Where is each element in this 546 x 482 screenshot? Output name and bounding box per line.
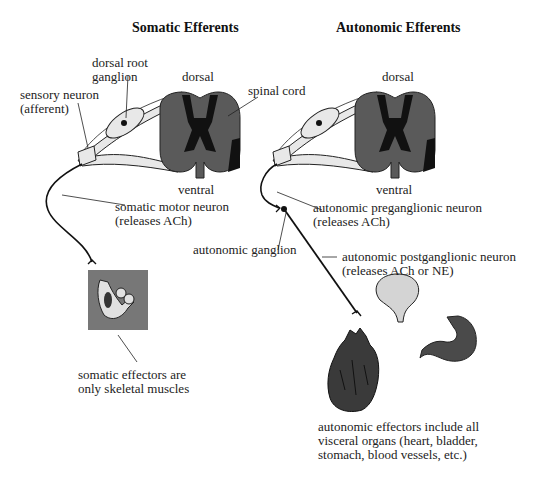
stomach xyxy=(420,316,476,361)
spinal-cord-label: spinal cord xyxy=(248,84,305,98)
bladder xyxy=(376,274,419,322)
efferents-diagram xyxy=(0,0,546,482)
somatic-motor-axon xyxy=(46,164,92,262)
somatic-dorsal-label: dorsal xyxy=(182,70,214,84)
autonomic-dorsal-label: dorsal xyxy=(382,70,414,84)
preganglionic-axon xyxy=(261,164,279,208)
dorsal-root-ganglion-label: dorsal root ganglion xyxy=(92,56,148,84)
autonomic-title: Autonomic Efferents xyxy=(336,20,461,36)
postganglionic-label: autonomic postganglionic neuron (release… xyxy=(342,250,516,278)
somatic-title: Somatic Efferents xyxy=(132,20,239,36)
autonomic-effectors-label: autonomic effectors include all visceral… xyxy=(318,420,479,462)
preganglionic-label: autonomic preganglionic neuron (releases… xyxy=(313,201,482,229)
heart xyxy=(328,328,379,412)
somatic-ventral-label: ventral xyxy=(178,183,214,197)
somatic-spinal-cord xyxy=(78,92,240,178)
somatic-effectors-label: somatic effectors are only skeletal musc… xyxy=(78,368,189,396)
somatic-motor-neuron-label: somatic motor neuron (releases ACh) xyxy=(115,200,229,228)
autonomic-ganglion-label: autonomic ganglion xyxy=(193,243,297,257)
sensory-neuron-label: sensory neuron (afferent) xyxy=(20,88,99,116)
autonomic-spinal-cord xyxy=(273,92,435,178)
skeletal-muscle-effector xyxy=(88,270,148,330)
autonomic-ventral-label: ventral xyxy=(376,183,412,197)
